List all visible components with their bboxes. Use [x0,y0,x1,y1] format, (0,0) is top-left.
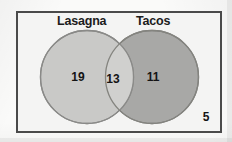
count-tacos-only: 11 [143,71,163,83]
set-label-lasagna: Lasagna [57,15,106,28]
count-outside-sets: 5 [198,111,214,123]
set-label-tacos: Tacos [136,15,170,28]
count-lasagna-only: 19 [68,71,88,83]
count-intersection: 13 [103,73,123,85]
venn-diagram-figure: Lasagna Tacos 19 13 11 5 [0,0,232,142]
